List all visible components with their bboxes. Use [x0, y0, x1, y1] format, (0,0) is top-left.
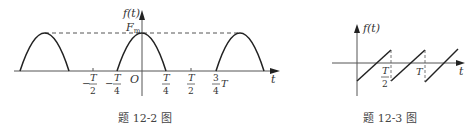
tick-label-3-4-T: 3 4 T — [212, 73, 229, 96]
svg-text:4: 4 — [213, 86, 219, 96]
y-axis-label: f(t) — [122, 7, 140, 20]
y-axis-label: f(t) — [362, 22, 380, 35]
origin-label: O — [130, 73, 139, 86]
tick-label-neg-T-4: − T 4 — [105, 72, 122, 96]
tick-label-T-4: T 4 — [162, 72, 171, 96]
svg-text:T: T — [382, 65, 390, 76]
svg-text:T: T — [90, 72, 98, 83]
svg-text:T: T — [221, 78, 229, 89]
y-axis-arrow-icon — [354, 24, 360, 33]
svg-text:2: 2 — [382, 79, 388, 89]
peak-label: Fm — [125, 21, 141, 35]
wave-arc-3 — [216, 33, 264, 71]
svg-text:3: 3 — [213, 73, 219, 83]
caption-12-2: 题 12-2 图 — [118, 112, 172, 125]
svg-text:T: T — [114, 72, 122, 83]
tick-label-neg-T-2: − T 2 — [82, 72, 98, 96]
svg-text:T: T — [188, 72, 196, 83]
svg-text:4: 4 — [163, 86, 169, 96]
caption-12-3: 题 12-3 图 — [363, 112, 417, 125]
figure-12-3: f(t) t T 2 T 题 12-3 图 — [332, 22, 465, 125]
svg-text:−: − — [105, 78, 113, 89]
x-axis-label: t — [271, 73, 276, 86]
x-axis-label: t — [459, 65, 464, 78]
tick-label-T-2: T 2 — [381, 65, 390, 89]
wave-arc-1 — [20, 33, 69, 71]
svg-text:4: 4 — [114, 86, 120, 96]
sawtooth-ramp-3 — [425, 49, 458, 82]
tick-label-T-2: T 2 — [187, 72, 196, 96]
figure-canvas: f(t) Fm t O − T 2 − T 4 T 4 T 2 — [0, 0, 476, 128]
svg-text:2: 2 — [90, 86, 96, 96]
tick-label-T: T — [416, 66, 424, 77]
svg-text:T: T — [163, 72, 171, 83]
figure-12-2: f(t) Fm t O − T 2 − T 4 T 4 T 2 — [14, 7, 280, 125]
svg-text:2: 2 — [188, 86, 194, 96]
